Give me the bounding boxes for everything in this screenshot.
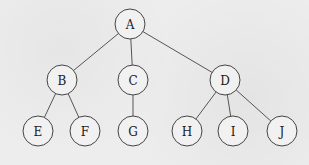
edge-d-j [236, 90, 271, 121]
node-a: A [115, 9, 145, 39]
node-c: C [118, 65, 148, 95]
nodes-group: ABCDEFGHIJ [23, 9, 297, 146]
node-i: I [218, 116, 248, 146]
node-label: I [231, 125, 236, 139]
node-b: B [47, 65, 77, 95]
node-h: H [172, 116, 202, 146]
node-label: G [128, 125, 138, 139]
node-label: F [81, 125, 89, 139]
node-label: C [128, 74, 137, 88]
node-label: E [34, 125, 43, 139]
node-label: B [58, 74, 67, 88]
node-j: J [267, 116, 297, 146]
tree-diagram: ABCDEFGHIJ [0, 0, 309, 165]
edge-a-c [131, 39, 132, 65]
edge-d-h [196, 92, 216, 119]
node-label: H [182, 125, 192, 139]
node-label: D [220, 74, 230, 88]
edge-d-i [227, 95, 230, 116]
node-label: A [125, 18, 135, 32]
edge-b-e [44, 94, 55, 118]
edge-a-d [143, 32, 212, 73]
node-f: F [70, 116, 100, 146]
tree-svg: ABCDEFGHIJ [0, 0, 309, 165]
edge-a-b [74, 34, 119, 71]
node-d: D [210, 65, 240, 95]
node-g: G [118, 116, 148, 146]
node-e: E [23, 116, 53, 146]
node-label: J [278, 125, 285, 139]
edge-b-f [68, 94, 79, 118]
